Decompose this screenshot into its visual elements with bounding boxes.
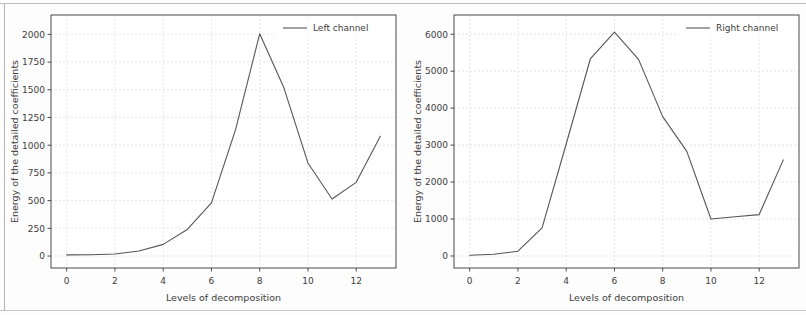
x-tick-label: 2 bbox=[515, 276, 521, 286]
x-tick-label: 0 bbox=[467, 276, 473, 286]
y-tick-label: 4000 bbox=[425, 103, 448, 113]
legend: Right channel bbox=[678, 18, 796, 38]
y-tick-label: 1250 bbox=[22, 113, 45, 123]
y-tick-label: 250 bbox=[28, 224, 45, 234]
y-tick-label: 2000 bbox=[22, 30, 45, 40]
x-tick-label: 4 bbox=[160, 276, 166, 286]
x-tick-label: 12 bbox=[350, 276, 361, 286]
x-tick-label: 8 bbox=[660, 276, 666, 286]
y-tick-label: 750 bbox=[28, 168, 45, 178]
right-channel-plot: 0246810120100020003000400050006000Levels… bbox=[403, 0, 806, 315]
y-tick-label: 1500 bbox=[22, 85, 45, 95]
x-tick-label: 0 bbox=[64, 276, 70, 286]
left-channel-plot: 024681012025050075010001250150017502000L… bbox=[0, 0, 403, 315]
y-tick-label: 1750 bbox=[22, 57, 45, 67]
right-channel-panel: 0246810120100020003000400050006000Levels… bbox=[403, 0, 806, 315]
y-tick-label: 5000 bbox=[425, 66, 448, 76]
figure-panels-row: 024681012025050075010001250150017502000L… bbox=[0, 0, 806, 315]
x-tick-label: 10 bbox=[705, 276, 717, 286]
x-axis-label: Levels of decomposition bbox=[569, 292, 684, 303]
y-tick-label: 500 bbox=[28, 196, 45, 206]
y-tick-label: 6000 bbox=[425, 30, 448, 40]
x-tick-label: 6 bbox=[209, 276, 215, 286]
plot-background bbox=[51, 15, 396, 268]
y-tick-label: 0 bbox=[39, 251, 45, 261]
y-tick-label: 3000 bbox=[425, 140, 448, 150]
x-tick-label: 10 bbox=[302, 276, 314, 286]
x-tick-label: 12 bbox=[753, 276, 764, 286]
y-tick-label: 1000 bbox=[425, 214, 448, 224]
y-axis-label: Energy of the detailed coefficients bbox=[412, 60, 423, 223]
y-tick-label: 0 bbox=[442, 251, 448, 261]
legend-label: Left channel bbox=[313, 23, 368, 33]
y-axis-label: Energy of the detailed coefficients bbox=[9, 60, 20, 223]
y-tick-label: 2000 bbox=[425, 177, 448, 187]
x-tick-label: 6 bbox=[612, 276, 618, 286]
legend-label: Right channel bbox=[716, 23, 778, 33]
x-tick-label: 2 bbox=[112, 276, 118, 286]
legend: Left channel bbox=[275, 18, 393, 38]
y-tick-label: 1000 bbox=[22, 141, 45, 151]
x-tick-label: 4 bbox=[563, 276, 569, 286]
left-channel-panel: 024681012025050075010001250150017502000L… bbox=[0, 0, 403, 315]
x-tick-label: 8 bbox=[257, 276, 263, 286]
x-axis-label: Levels of decomposition bbox=[166, 292, 281, 303]
plot-background bbox=[454, 15, 799, 268]
figure-page: 024681012025050075010001250150017502000L… bbox=[0, 0, 806, 315]
